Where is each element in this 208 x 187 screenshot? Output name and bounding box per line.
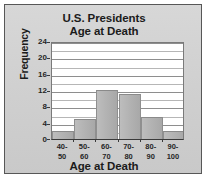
x-tick-label-line-1: 60- xyxy=(95,142,117,152)
x-tick-label-line-1: 40- xyxy=(51,142,73,152)
chart-title-line-2: Age at Death xyxy=(5,25,203,38)
y-tick-label: 4 xyxy=(21,120,47,128)
y-tick-mark xyxy=(47,75,50,76)
y-tick-mark xyxy=(47,91,50,92)
y-tick-mark xyxy=(47,107,50,108)
chart-figure: U.S. Presidents Age at Death Frequency 2… xyxy=(0,0,208,187)
y-tick-mark xyxy=(47,58,50,59)
chart-panel: U.S. Presidents Age at Death Frequency 2… xyxy=(4,4,202,174)
bar-40-50 xyxy=(52,131,74,139)
y-tick-label: 8 xyxy=(21,103,47,111)
y-tick-mark xyxy=(47,139,50,140)
chart-title: U.S. Presidents Age at Death xyxy=(5,12,203,37)
x-tick-label: 60- 70 xyxy=(95,142,117,161)
bar-90-100 xyxy=(163,131,184,139)
x-tick-label: 50- 60 xyxy=(73,142,95,161)
y-axis-ticks: 24 20 16 12 8 4 0 xyxy=(19,42,47,140)
y-tick-label: 24 xyxy=(21,38,47,46)
chart-title-line-1: U.S. Presidents xyxy=(5,12,203,25)
x-tick-label: 80- 90 xyxy=(140,142,162,161)
y-tick-label: 16 xyxy=(21,71,47,79)
x-tick-label-line-1: 80- xyxy=(140,142,162,152)
plot-area xyxy=(51,42,184,140)
x-axis-label: Age at Death xyxy=(5,160,203,172)
x-tick-label-line-1: 90- xyxy=(162,142,184,152)
x-tick-label-line-1: 70- xyxy=(118,142,140,152)
y-tick-label: 0 xyxy=(21,136,47,144)
x-tick-label: 70- 80 xyxy=(118,142,140,161)
bar-80-90 xyxy=(141,117,163,140)
y-tick-mark xyxy=(47,42,50,43)
y-tick-label: 12 xyxy=(21,87,47,95)
y-tick-label: 20 xyxy=(21,54,47,62)
bar-50-60 xyxy=(74,119,96,139)
bar-series xyxy=(52,43,183,139)
x-tick-label: 40- 50 xyxy=(51,142,73,161)
x-tick-label: 90- 100 xyxy=(162,142,184,161)
bar-70-80 xyxy=(119,94,141,139)
x-tick-label-line-1: 50- xyxy=(73,142,95,152)
y-tick-mark xyxy=(47,124,50,125)
bar-60-70 xyxy=(96,90,118,139)
